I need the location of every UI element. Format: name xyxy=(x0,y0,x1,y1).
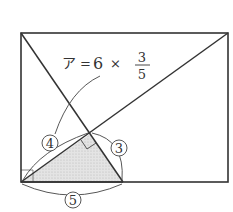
formula: ア = 6 × 3 5 xyxy=(62,50,150,82)
svg-text:4: 4 xyxy=(46,136,54,151)
circled-label-3: 3 xyxy=(111,140,127,156)
circled-label-4: 4 xyxy=(42,135,58,151)
geometry-diagram: 4 3 5 ア = 6 × 3 5 xyxy=(0,0,233,212)
diagonal-bottomleft-to-topright xyxy=(21,33,228,182)
leader-line xyxy=(55,76,100,134)
svg-text:ア: ア xyxy=(62,55,76,71)
circled-label-5: 5 xyxy=(65,192,81,208)
shaded-triangle xyxy=(21,134,123,182)
svg-text:×: × xyxy=(110,56,121,71)
svg-text:=: = xyxy=(80,56,91,71)
svg-text:5: 5 xyxy=(138,67,146,82)
svg-text:3: 3 xyxy=(115,141,123,156)
svg-text:5: 5 xyxy=(69,193,77,208)
svg-text:3: 3 xyxy=(138,50,146,65)
svg-text:6: 6 xyxy=(93,54,103,73)
